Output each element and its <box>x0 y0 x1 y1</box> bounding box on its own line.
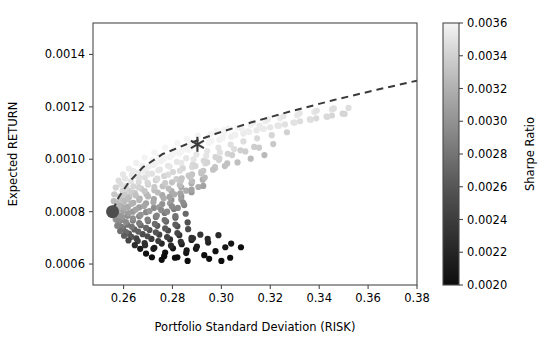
scatter-point <box>261 152 267 158</box>
scatter-point <box>125 210 131 216</box>
scatter-point <box>130 215 136 221</box>
scatter-point <box>215 232 221 238</box>
scatter-point <box>216 156 222 162</box>
scatter-point <box>178 160 184 166</box>
scatter-point <box>292 119 298 125</box>
scatter-point <box>175 205 181 211</box>
scatter-point <box>256 145 262 151</box>
scatter-point <box>154 176 160 182</box>
scatter-point <box>210 167 216 173</box>
scatter-point <box>143 225 149 231</box>
x-tick-label: 0.34 <box>306 291 332 305</box>
scatter-point <box>240 138 246 144</box>
scatter-point <box>155 167 161 173</box>
scatter-point <box>144 180 150 186</box>
scatter-point <box>142 155 148 161</box>
scatter-point <box>270 141 276 147</box>
y-tick-label: 0.0006 <box>45 257 85 271</box>
scatter-point <box>190 156 196 162</box>
scatter-point <box>121 204 127 210</box>
colorbar-label: Sharpe Ratio <box>523 117 537 191</box>
scatter-point <box>218 135 224 141</box>
colorbar-tick-label: 0.0030 <box>467 114 507 128</box>
colorbar-tick-label: 0.0032 <box>467 82 507 96</box>
scatter-point <box>197 232 203 238</box>
scatter-point <box>212 248 218 254</box>
scatter-point <box>117 228 123 234</box>
scatter-point <box>113 184 119 190</box>
scatter-point <box>142 188 148 194</box>
scatter-point <box>204 159 210 165</box>
scatter-point <box>183 188 189 194</box>
scatter-point <box>151 184 157 190</box>
colorbar-tick-label: 0.0022 <box>467 245 507 259</box>
scatter-point <box>133 160 139 166</box>
scatter-point <box>183 155 189 161</box>
x-tick-label: 0.36 <box>355 291 381 305</box>
scatter-point <box>200 183 206 189</box>
scatter-point <box>242 148 248 154</box>
scatter-point <box>141 203 147 209</box>
scatter-point <box>198 170 204 176</box>
scatter-point <box>116 178 122 184</box>
chart-canvas: 0.260.280.300.320.340.360.38 0.00060.000… <box>0 0 550 343</box>
scatter-point <box>162 217 168 223</box>
scatter-point <box>203 153 209 159</box>
scatter-point <box>248 156 254 162</box>
scatter-point <box>228 241 234 247</box>
scatter-point <box>133 206 139 212</box>
scatter-point <box>162 180 168 186</box>
scatter-point <box>184 247 190 253</box>
scatter-point <box>172 221 178 227</box>
scatter-point <box>155 238 161 244</box>
x-tick-label: 0.30 <box>209 291 235 305</box>
scatter-point <box>159 257 165 263</box>
scatter-point <box>246 129 252 135</box>
scatter-point <box>256 123 262 129</box>
scatter-point <box>162 225 168 231</box>
scatter-point <box>155 189 161 195</box>
scatter-point <box>144 216 150 222</box>
scatter-point <box>314 107 320 113</box>
y-axis-ticks: 0.00060.00080.00100.00120.0014 <box>45 47 93 271</box>
minimum-variance-portfolio-marker <box>106 205 119 218</box>
scatter-point <box>229 152 235 158</box>
scatter-point <box>239 126 245 132</box>
y-tick-label: 0.0008 <box>45 205 85 219</box>
scatter-point <box>174 140 180 146</box>
scatter-point <box>187 174 193 180</box>
scatter-point <box>125 237 131 243</box>
scatter-point <box>166 194 172 200</box>
y-tick-label: 0.0010 <box>45 152 85 166</box>
colorbar-tick-label: 0.0036 <box>467 16 507 30</box>
x-axis-label: Portfolio Standard Deviation (RISK) <box>155 320 356 334</box>
scatter-point <box>136 174 142 180</box>
scatter-point <box>136 220 142 226</box>
scatter-point <box>166 163 172 169</box>
scatter-plot-figure: 0.260.280.300.320.340.360.38 0.00060.000… <box>0 0 550 343</box>
scatter-point <box>206 256 212 262</box>
colorbar-gradient <box>443 23 459 285</box>
scatter-point <box>152 221 158 227</box>
scatter-point <box>205 236 211 242</box>
scatter-point <box>222 163 228 169</box>
scatter-point <box>345 105 351 111</box>
scatter-point <box>201 252 207 258</box>
y-tick-label: 0.0012 <box>45 100 85 114</box>
scatter-point <box>222 244 228 250</box>
scatter-point <box>145 171 151 177</box>
scatter-point <box>172 213 178 219</box>
scatter-point <box>232 132 238 138</box>
scatter-point <box>234 159 240 165</box>
scatter-point <box>136 184 142 190</box>
scatter-point <box>231 146 237 152</box>
x-tick-label: 0.38 <box>404 291 430 305</box>
scatter-point <box>178 239 184 245</box>
scatter-point <box>190 235 196 241</box>
scatter-point <box>174 230 180 236</box>
scatter-point <box>128 201 134 207</box>
scatter-point <box>130 183 136 189</box>
scatter-point <box>150 246 156 252</box>
scatter-point <box>132 242 138 248</box>
scatter-point <box>227 255 233 261</box>
